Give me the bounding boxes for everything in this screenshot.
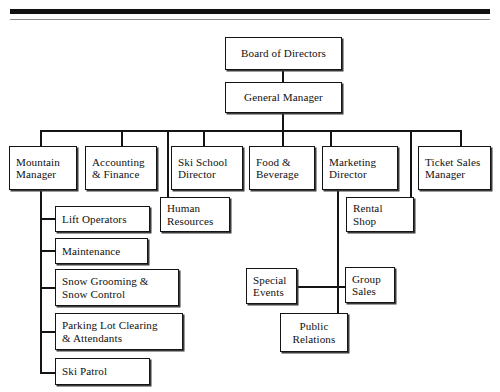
connector-mountain-to-skipatrol <box>40 372 56 374</box>
node-snow-grooming-control[interactable]: Snow Grooming & Snow Control <box>55 269 179 306</box>
node-label: Food & Beverage <box>256 156 314 181</box>
connector-junction-to-special <box>296 286 338 288</box>
node-special-events[interactable]: Special Events <box>246 268 297 304</box>
node-mountain-manager[interactable]: Mountain Manager <box>9 146 77 190</box>
node-public-relations[interactable]: Public Relations <box>280 313 348 352</box>
node-group-sales[interactable]: Group Sales <box>345 267 395 303</box>
node-food-beverage[interactable]: Food & Beverage <box>249 146 315 190</box>
node-label: Accounting & Finance <box>92 156 156 181</box>
connector-bus-to-skischool <box>203 130 205 146</box>
node-label: Ticket Sales Manager <box>425 156 490 181</box>
node-label: Rental Shop <box>353 202 413 227</box>
connector-mountain-to-snow <box>40 287 56 289</box>
node-label: Parking Lot Clearing & Attendants <box>62 319 182 344</box>
connector-mountain-to-parking <box>40 331 56 333</box>
connector-mountain-to-lift <box>40 218 56 220</box>
node-label: Board of Directors <box>226 47 341 59</box>
node-accounting-finance[interactable]: Accounting & Finance <box>85 146 157 190</box>
node-maintenance[interactable]: Maintenance <box>55 238 148 264</box>
connector-bus-to-food <box>282 130 284 146</box>
node-label: General Manager <box>226 91 341 103</box>
node-board-of-directors[interactable]: Board of Directors <box>225 37 342 70</box>
node-label: Snow Grooming & Snow Control <box>62 275 178 300</box>
connector-marketing-spine <box>337 190 339 314</box>
node-label: Group Sales <box>352 273 394 298</box>
node-label: Public Relations <box>281 320 347 345</box>
node-ticket-sales-manager[interactable]: Ticket Sales Manager <box>418 146 491 190</box>
connector-ticket-right-drop <box>460 130 462 146</box>
node-label: Special Events <box>253 274 296 299</box>
node-label: Ski School Director <box>178 156 242 181</box>
connector-bus-to-marketing <box>330 130 332 146</box>
node-ski-patrol[interactable]: Ski Patrol <box>55 358 150 385</box>
node-ski-school-director[interactable]: Ski School Director <box>171 146 243 190</box>
node-marketing-director[interactable]: Marketing Director <box>322 146 398 190</box>
node-general-manager[interactable]: General Manager <box>225 82 342 113</box>
node-human-resources[interactable]: Human Resources <box>160 197 230 232</box>
org-chart-canvas: Board of Directors General Manager Mount… <box>0 0 500 392</box>
connector-mountain-to-maintenance <box>40 250 56 252</box>
node-lift-operators[interactable]: Lift Operators <box>55 206 150 232</box>
node-label: Maintenance <box>62 245 147 257</box>
node-label: Human Resources <box>167 202 229 227</box>
node-label: Mountain Manager <box>16 156 76 181</box>
node-label: Ski Patrol <box>62 365 149 377</box>
connector-gm-to-bus <box>282 113 284 131</box>
connector-main-bus <box>40 130 461 132</box>
node-parking-lot-clearing[interactable]: Parking Lot Clearing & Attendants <box>55 313 183 350</box>
node-label: Marketing Director <box>329 156 397 181</box>
node-label: Lift Operators <box>62 213 149 225</box>
connector-bus-to-mountain <box>40 130 42 146</box>
header-thick-rule <box>10 9 490 14</box>
node-rental-shop[interactable]: Rental Shop <box>346 197 414 232</box>
header-thin-rule <box>10 19 490 20</box>
connector-bus-to-accounting <box>121 130 123 146</box>
